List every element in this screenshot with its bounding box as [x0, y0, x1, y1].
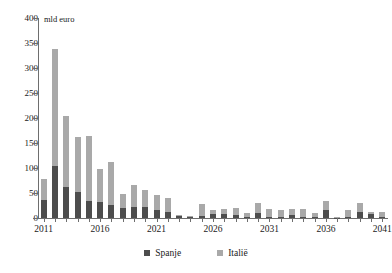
x-axis-tick-mark: [179, 218, 180, 222]
bar-segment-spanje: [63, 187, 69, 218]
bar-segment-italie: [266, 209, 272, 218]
bar-group: [75, 137, 81, 219]
bar-group: [221, 209, 227, 219]
x-axis-tick-mark: [382, 218, 383, 222]
bar-segment-spanje: [75, 192, 81, 219]
x-axis-tick-label: 2026: [204, 224, 223, 235]
x-axis-tick-label: 2016: [91, 224, 110, 235]
bar-group: [199, 204, 205, 219]
bar-segment-italie: [255, 203, 261, 213]
x-axis-tick-mark: [66, 218, 67, 222]
bar-group: [255, 203, 261, 219]
legend-item: Spanje: [144, 248, 181, 258]
x-axis-tick-mark: [236, 218, 237, 222]
x-axis-tick-mark: [44, 218, 45, 222]
bar-segment-spanje: [131, 207, 137, 218]
bar-segment-italie: [357, 203, 363, 212]
bar-segment-italie: [345, 210, 351, 217]
legend-swatch-icon: [144, 250, 150, 256]
bar-segment-spanje: [41, 200, 47, 219]
bar-group: [41, 179, 47, 219]
bar-segment-spanje: [108, 205, 114, 219]
bar-segment-italie: [86, 136, 92, 202]
bar-group: [108, 162, 114, 218]
x-axis-tick-mark: [190, 218, 191, 222]
bar-segment-italie: [131, 185, 137, 208]
bar-segment-spanje: [52, 166, 58, 218]
bar-group: [278, 210, 284, 218]
bar-series-group: [38, 18, 388, 218]
bar-segment-spanje: [323, 210, 329, 219]
bar-segment-spanje: [97, 202, 103, 219]
plot-area: [38, 18, 388, 218]
x-axis-tick-mark: [303, 218, 304, 222]
x-axis-tick-mark: [89, 218, 90, 222]
chart-legend: SpanjeItalië: [0, 248, 392, 258]
bar-group: [210, 210, 216, 219]
bar-segment-italie: [165, 198, 171, 212]
bar-group: [345, 210, 351, 218]
bar-segment-spanje: [86, 201, 92, 218]
bar-group: [120, 194, 126, 218]
bar-group: [97, 169, 103, 218]
x-axis-tick-mark: [224, 218, 225, 222]
x-axis-tick-mark: [213, 218, 214, 222]
bar-segment-spanje: [120, 208, 126, 218]
bar-segment-italie: [154, 195, 160, 210]
x-axis-tick-mark: [157, 218, 158, 222]
x-axis-tick-mark: [269, 218, 270, 222]
bar-segment-italie: [63, 116, 69, 188]
bar-segment-italie: [41, 179, 47, 200]
bar-group: [165, 198, 171, 219]
chart-container: mld euro 400350300250200150100500 201120…: [0, 0, 392, 273]
bar-segment-italie: [300, 209, 306, 217]
bar-group: [357, 203, 363, 219]
bar-group: [63, 116, 69, 219]
bar-segment-italie: [97, 169, 103, 202]
x-axis-tick-mark: [134, 218, 135, 222]
bar-group: [323, 201, 329, 218]
bar-group: [266, 209, 272, 219]
x-axis-tick-mark: [315, 218, 316, 222]
bar-segment-italie: [108, 162, 114, 205]
x-axis-tick-mark: [55, 218, 56, 222]
bar-segment-italie: [142, 190, 148, 207]
legend-label: Spanje: [155, 248, 181, 258]
bar-segment-italie: [278, 210, 284, 217]
x-axis-tick-mark: [247, 218, 248, 222]
bar-segment-italie: [233, 208, 239, 216]
x-axis-tick-mark: [360, 218, 361, 222]
x-axis-tick-mark: [111, 218, 112, 222]
bar-group: [300, 209, 306, 218]
x-axis-tick-mark: [100, 218, 101, 222]
bar-group: [86, 136, 92, 219]
bar-group: [52, 49, 58, 219]
bar-group: [131, 185, 137, 219]
legend-item: Italië: [217, 248, 248, 258]
x-axis-tick-mark: [281, 218, 282, 222]
x-axis-tick-mark: [326, 218, 327, 222]
legend-label: Italië: [228, 248, 248, 258]
legend-swatch-icon: [217, 250, 223, 256]
x-axis-tick-mark: [145, 218, 146, 222]
bar-segment-spanje: [154, 210, 160, 218]
bar-segment-italie: [120, 194, 126, 208]
x-axis-tick-label: 2011: [34, 224, 53, 235]
bar-group: [233, 208, 239, 219]
x-axis-tick-label: 2036: [316, 224, 335, 235]
x-axis-tick-mark: [258, 218, 259, 222]
bar-segment-italie: [199, 204, 205, 217]
x-axis-tick-mark: [337, 218, 338, 222]
x-axis-tick-label: 2031: [260, 224, 279, 235]
bar-group: [154, 195, 160, 218]
x-axis-tick-mark: [371, 218, 372, 222]
y-axis-tick-mark: [33, 218, 38, 219]
x-axis-tick-label: 2021: [147, 224, 166, 235]
bar-group: [142, 190, 148, 218]
bar-segment-spanje: [142, 207, 148, 219]
x-axis-tick-mark: [202, 218, 203, 222]
bar-segment-italie: [52, 49, 58, 167]
x-axis-tick-label: 2041: [373, 224, 392, 235]
x-axis-tick-mark: [348, 218, 349, 222]
x-axis-tick-mark: [78, 218, 79, 222]
